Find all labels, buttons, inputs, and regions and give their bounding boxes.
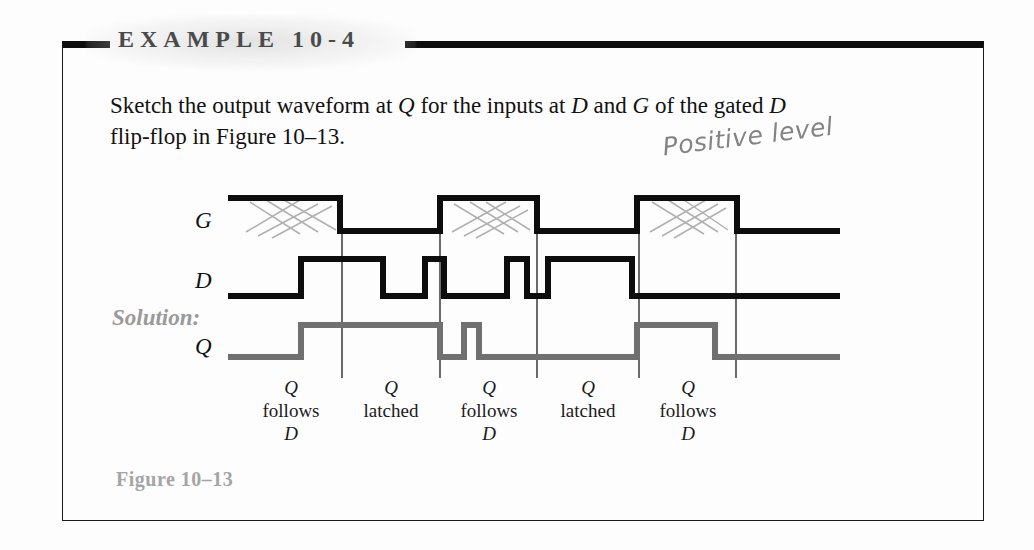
figure-caption: Figure 10–13: [116, 468, 233, 491]
prompt-var-d2: D: [769, 93, 786, 118]
prompt-text-c: and: [588, 93, 633, 118]
prompt-text-a: Sketch the output waveform at: [110, 93, 398, 118]
timing-annotation-2-line3: D: [429, 422, 549, 445]
timing-annotation-4: Q follows D: [628, 376, 748, 445]
prompt-text-d: of the gated: [649, 93, 769, 118]
prompt-text-b: for the inputs at: [415, 93, 572, 118]
solution-label: Solution:: [112, 305, 200, 331]
timing-annotation-4-line1: Q: [628, 376, 748, 399]
timing-annotation-4-line3: D: [628, 422, 748, 445]
prompt-var-g: G: [633, 93, 650, 118]
signal-label-q: Q: [195, 334, 212, 360]
signal-label-d: D: [195, 268, 212, 294]
prompt-line-2: flip-flop in Figure 10–13.: [110, 124, 345, 149]
timing-annotation-0-line3: D: [231, 422, 351, 445]
prompt-var-q: Q: [398, 93, 415, 118]
timing-annotation-4-line2: follows: [628, 399, 748, 422]
prompt-var-d: D: [571, 93, 588, 118]
signal-label-g: G: [195, 208, 212, 234]
